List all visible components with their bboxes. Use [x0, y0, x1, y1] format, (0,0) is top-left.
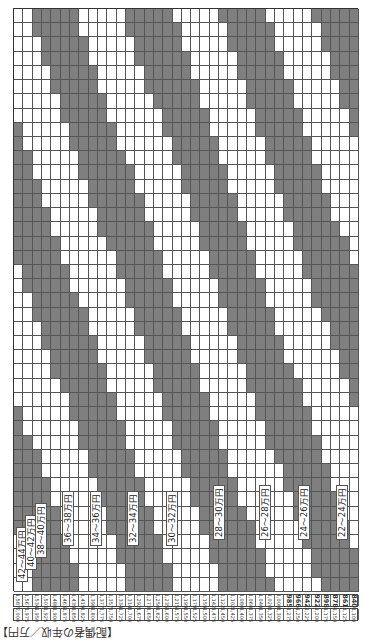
grid-cell [154, 578, 163, 592]
grid-cell [182, 23, 191, 37]
grid-cell [51, 535, 60, 549]
grid-cell [154, 464, 163, 478]
grid-cell [107, 9, 116, 23]
value-text: 1,175 [323, 607, 329, 621]
grid-cell [322, 194, 331, 208]
grid-cell [14, 23, 23, 37]
grid-cell [312, 279, 321, 293]
value-cell: 1,425 [228, 609, 237, 620]
grid-cell [331, 37, 340, 51]
grid-cell [89, 350, 98, 364]
grid-cell [154, 308, 163, 322]
grid-cell [238, 194, 247, 208]
grid-cell [79, 521, 88, 535]
grid-cell [126, 109, 135, 123]
grid-cell [70, 336, 79, 350]
grid-cell [117, 308, 126, 322]
grid-cell [219, 194, 228, 208]
grid-cell [303, 208, 312, 222]
grid-cell [210, 222, 219, 236]
grid-cell [256, 180, 265, 194]
value-cell: 1,375 [247, 609, 256, 620]
grid-cell [210, 151, 219, 165]
grid-cell [340, 94, 349, 108]
value-text: 1,900 [52, 607, 58, 621]
grid-cell [33, 123, 42, 137]
grid-cell [23, 478, 32, 492]
grid-cell [275, 9, 284, 23]
grid-cell [23, 109, 32, 123]
grid-cell [238, 137, 247, 151]
grid-cell [173, 251, 182, 265]
grid-cell [98, 137, 107, 151]
value-cell: 1,125 [340, 609, 349, 620]
grid-cell [51, 208, 60, 222]
grid-cell [51, 507, 60, 521]
value-text: 1,625 [155, 607, 161, 621]
grid-cell [42, 564, 51, 578]
grid-cell [145, 222, 154, 236]
grid-cell [98, 123, 107, 137]
grid-cell [182, 407, 191, 421]
grid-cell [238, 350, 247, 364]
grid-cell [70, 308, 79, 322]
grid-cell [51, 421, 60, 435]
grid-cell [303, 180, 312, 194]
grid-cell [200, 436, 209, 450]
grid-cell [117, 350, 126, 364]
grid-cell [200, 251, 209, 265]
grid-cell [247, 194, 256, 208]
grid-cell [238, 66, 247, 80]
grid-cell [275, 52, 284, 66]
grid-cell [303, 94, 312, 108]
grid-cell [247, 180, 256, 194]
grid-cell [107, 407, 116, 421]
value-cell: 1,475 [210, 609, 219, 620]
grid-cell [266, 208, 275, 222]
value-text: 1,375 [248, 607, 254, 621]
grid-cell [107, 564, 116, 578]
grid-cell [238, 478, 247, 492]
grid-cell [219, 549, 228, 563]
grid-cell [51, 165, 60, 179]
grid-cell [275, 322, 284, 336]
value-text: 1,775 [99, 607, 105, 621]
grid-cell [117, 123, 126, 137]
grid-cell [70, 123, 79, 137]
value-text: 1,215 [174, 593, 180, 607]
grid-cell [182, 436, 191, 450]
grid-cell [135, 464, 144, 478]
grid-cell [145, 94, 154, 108]
grid-cell [275, 109, 284, 123]
grid-cell [210, 421, 219, 435]
grid-cell [79, 9, 88, 23]
grid-cell [284, 109, 293, 123]
grid-cell [126, 165, 135, 179]
grid-cell [70, 407, 79, 421]
grid-cell [247, 151, 256, 165]
grid-cell [98, 9, 107, 23]
grid-cell [98, 407, 107, 421]
grid-cell [42, 421, 51, 435]
grid-cell [42, 66, 51, 80]
grid-cell [294, 364, 303, 378]
grid-cell [312, 322, 321, 336]
grid-cell [322, 137, 331, 151]
grid-cell [228, 293, 237, 307]
grid-cell [200, 464, 209, 478]
grid-cell [145, 322, 154, 336]
grid-cell [238, 165, 247, 179]
grid-cell [312, 436, 321, 450]
grid-cell [340, 407, 349, 421]
grid-cell [228, 564, 237, 578]
grid-cell [312, 237, 321, 251]
grid-cell [42, 123, 51, 137]
grid-cell [145, 478, 154, 492]
grid-cell [154, 478, 163, 492]
value-text: 1,350 [258, 607, 264, 621]
grid-cell [294, 9, 303, 23]
grid-cell [107, 393, 116, 407]
grid-cell [154, 66, 163, 80]
grid-cell [98, 222, 107, 236]
grid-cell [322, 407, 331, 421]
